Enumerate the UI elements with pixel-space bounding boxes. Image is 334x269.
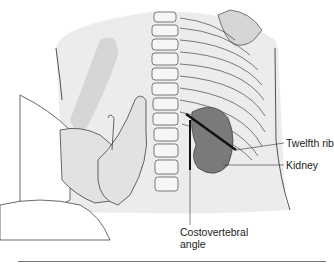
kidney	[192, 107, 234, 173]
label-costovertebral-line2: angle	[180, 238, 206, 250]
label-kidney: Kidney	[286, 159, 318, 171]
label-twelfth-rib: Twelfth rib	[286, 137, 334, 149]
spine	[152, 12, 178, 191]
bottom-divider	[18, 261, 326, 262]
label-costovertebral-line1: Costovertebral	[180, 226, 248, 238]
